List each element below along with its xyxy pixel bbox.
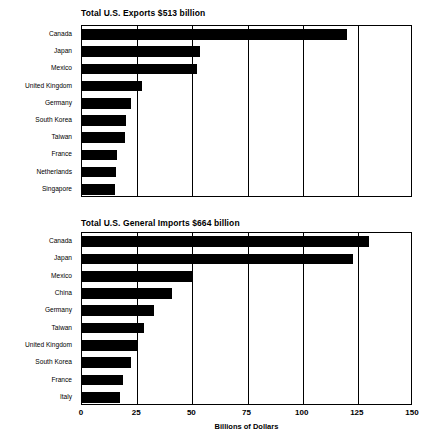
bar-chart-figure: Total U.S. Exports $513 billion CanadaJa…	[0, 0, 440, 440]
exports-plot-area	[81, 25, 412, 197]
category-label: Mexico	[0, 59, 76, 76]
category-label: Mexico	[0, 267, 76, 284]
category-label: Germany	[0, 301, 76, 318]
imports-panel: Total U.S. General Imports $664 billion …	[0, 210, 440, 440]
bar-row	[82, 112, 411, 129]
exports-bar-series	[82, 26, 411, 196]
bar-singapore	[82, 184, 115, 195]
bar-mexico	[82, 271, 192, 282]
x-axis-label: Billions of Dollars	[81, 422, 412, 431]
category-label: United Kingdom	[0, 336, 76, 353]
category-label: Germany	[0, 94, 76, 111]
category-label: Canada	[0, 232, 76, 249]
category-label: Canada	[0, 25, 76, 42]
bar-row	[82, 164, 411, 181]
imports-bar-series	[82, 233, 411, 404]
bar-row	[82, 146, 411, 163]
bar-row	[82, 302, 411, 319]
bar-row	[82, 250, 411, 267]
bar-taiwan	[82, 132, 125, 143]
bar-taiwan	[82, 323, 144, 334]
bar-row	[82, 268, 411, 285]
bar-france	[82, 375, 123, 386]
category-label: Netherlands	[0, 163, 76, 180]
bar-canada	[82, 236, 369, 247]
bar-row	[82, 95, 411, 112]
x-tick-label-100: 100	[295, 408, 308, 417]
category-label: Singapore	[0, 180, 76, 197]
exports-panel-title: Total U.S. Exports $513 billion	[81, 8, 205, 18]
imports-category-axis: CanadaJapanMexicoChinaGermanyTaiwanUnite…	[0, 232, 76, 405]
x-tick-label-125: 125	[350, 408, 363, 417]
category-label: Italy	[0, 388, 76, 405]
bar-row	[82, 319, 411, 336]
bar-china	[82, 288, 172, 299]
x-tick-label-50: 50	[187, 408, 196, 417]
bar-row	[82, 285, 411, 302]
exports-category-axis: CanadaJapanMexicoUnited KingdomGermanySo…	[0, 25, 76, 197]
category-label: China	[0, 284, 76, 301]
bar-row	[82, 337, 411, 354]
bar-japan	[82, 46, 200, 57]
category-label: South Korea	[0, 111, 76, 128]
bar-mexico	[82, 64, 197, 75]
category-label: South Korea	[0, 353, 76, 370]
category-label: Taiwan	[0, 128, 76, 145]
bar-row	[82, 389, 411, 406]
bar-italy	[82, 392, 120, 403]
category-label: Japan	[0, 42, 76, 59]
category-label: France	[0, 370, 76, 387]
imports-panel-title: Total U.S. General Imports $664 billion	[81, 218, 240, 228]
bar-row	[82, 129, 411, 146]
x-tick-label-25: 25	[132, 408, 141, 417]
bar-south-korea	[82, 115, 126, 126]
bar-row	[82, 354, 411, 371]
bar-south-korea	[82, 357, 131, 368]
bar-row	[82, 26, 411, 43]
bar-row	[82, 233, 411, 250]
bar-row	[82, 181, 411, 198]
category-label: Taiwan	[0, 318, 76, 335]
x-axis-ticks: 0255075100125150	[81, 408, 412, 422]
category-label: France	[0, 145, 76, 162]
bar-france	[82, 150, 117, 161]
bar-row	[82, 78, 411, 95]
bar-netherlands	[82, 167, 116, 178]
bar-united-kingdom	[82, 81, 142, 92]
category-label: United Kingdom	[0, 77, 76, 94]
bar-germany	[82, 305, 154, 316]
bar-row	[82, 60, 411, 77]
bar-japan	[82, 254, 353, 265]
bar-row	[82, 371, 411, 388]
bar-united-kingdom	[82, 340, 138, 351]
imports-plot-area	[81, 232, 412, 405]
x-tick-label-0: 0	[79, 408, 83, 417]
bar-canada	[82, 29, 347, 40]
exports-panel: Total U.S. Exports $513 billion CanadaJa…	[0, 0, 440, 210]
bar-germany	[82, 98, 131, 109]
bar-row	[82, 43, 411, 60]
category-label: Japan	[0, 249, 76, 266]
x-tick-label-75: 75	[242, 408, 251, 417]
x-tick-label-150: 150	[405, 408, 418, 417]
